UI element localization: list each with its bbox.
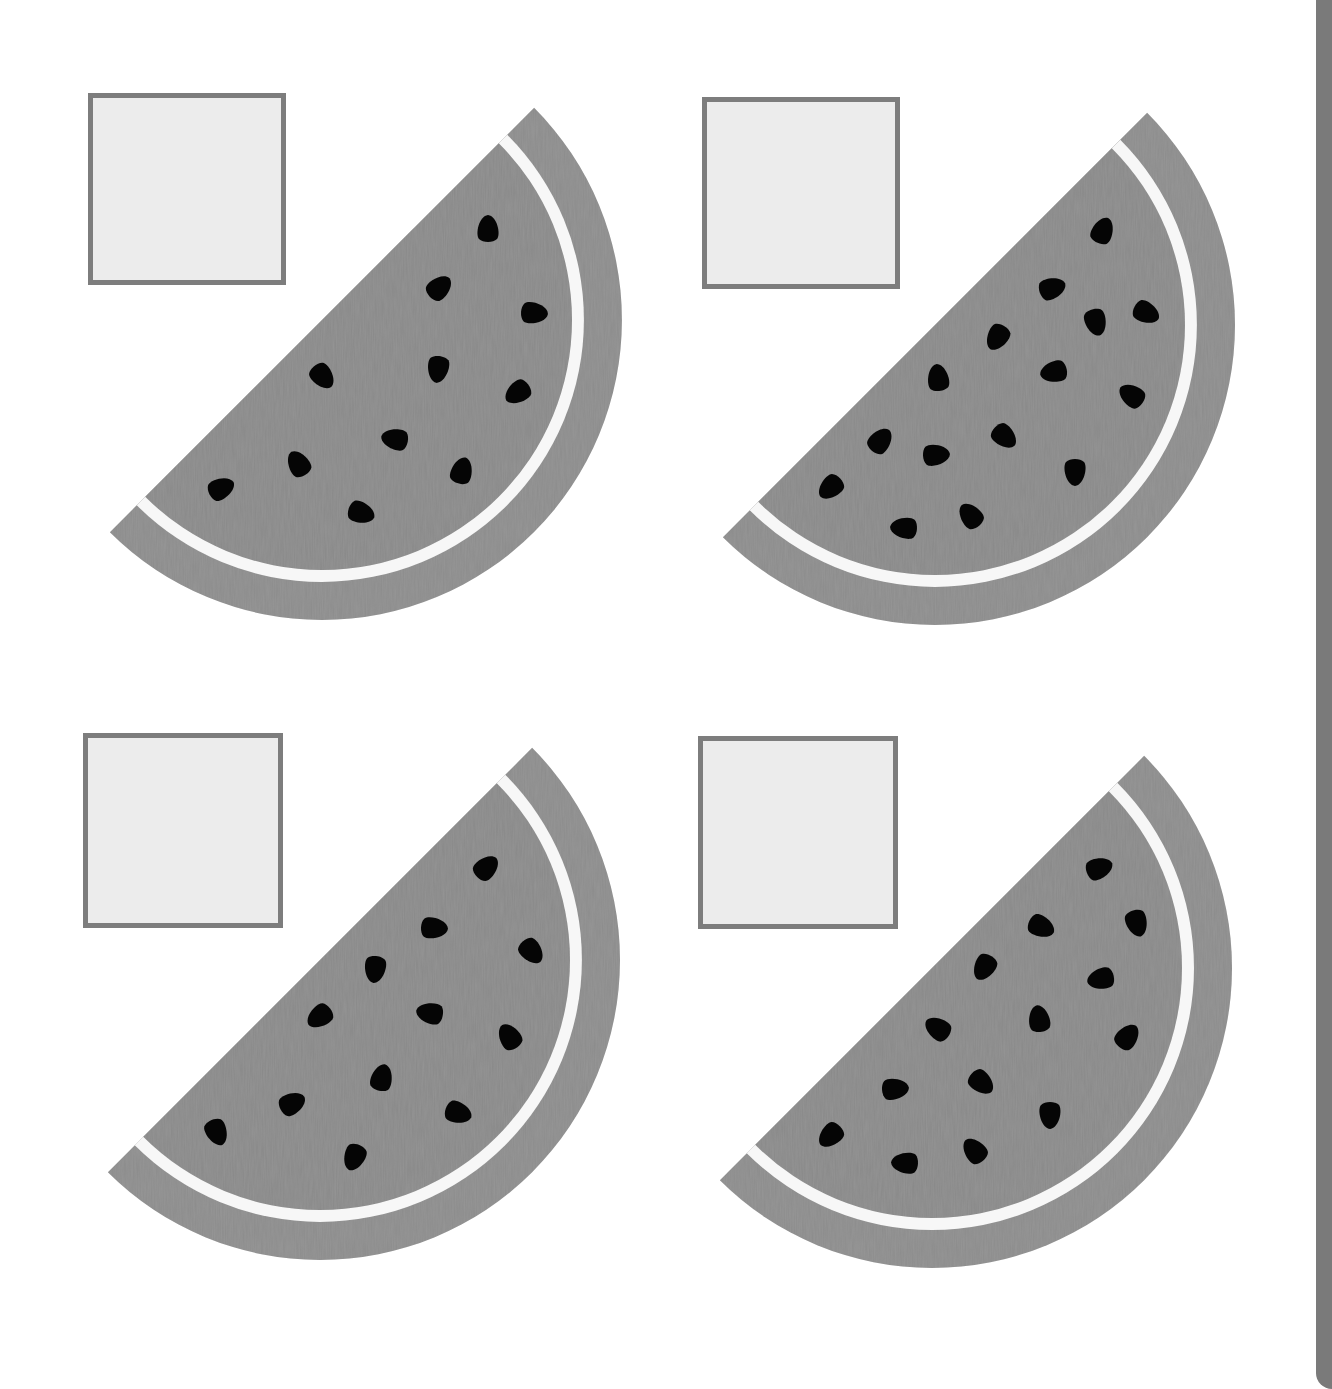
seed-counting-worksheet bbox=[0, 0, 1332, 1389]
page-edge-strip bbox=[1316, 0, 1332, 1389]
answer-box-2[interactable] bbox=[702, 97, 900, 289]
answer-box-1[interactable] bbox=[88, 93, 286, 285]
answer-box-3[interactable] bbox=[83, 733, 283, 928]
answer-box-4[interactable] bbox=[698, 736, 898, 929]
